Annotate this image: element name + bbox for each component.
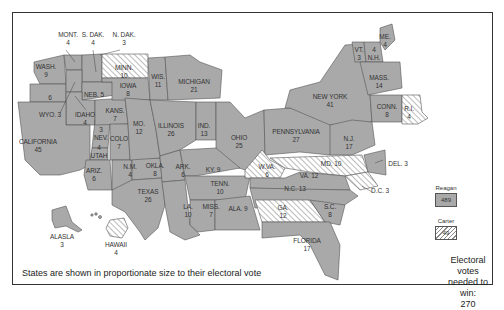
label-ariz: ARIZ.6 [86,167,102,183]
label-mont: MONT.4 [58,31,78,47]
label-iowa: IOWA8 [120,82,137,98]
legend-reagan-swatch: 489 [435,193,457,207]
label-wva: W.VA.6 [258,163,275,179]
state-hawaii [106,218,128,238]
state-sdak [82,54,102,82]
label-wash: WASH.9 [36,63,57,79]
label-okla: OKLA.8 [146,162,165,178]
label-ndak: N. DAK.3 [113,31,136,47]
label-ind: IND.13 [198,122,211,138]
label-utah: 4UTAH [91,144,108,160]
label-ala: ALA. 9 [229,205,248,213]
label-conn: CONN.8 [377,103,397,119]
legend-carter-swatch: 49 [435,226,457,240]
label-nm: N.M.4 [123,163,136,179]
label-sdak: S. DAK.4 [82,31,104,47]
label-dc: D.C. 3 [371,187,389,195]
hawaii-island [99,216,102,219]
label-miss: MISS.7 [202,203,219,219]
label-nev: 3NEV. [94,126,108,142]
label-ri: R.I.4 [404,105,414,121]
label-newyork: NEW YORK41 [313,93,347,109]
label-colo: COLO7 [110,135,128,151]
hawaii-island [91,214,93,216]
label-alaska: ALASLA3 [50,233,74,249]
label-me: ME.4 [379,33,390,49]
label-kans: KANS.7 [105,107,124,123]
win-threshold: Electoral votes needed to win: 270 [439,255,497,310]
state-wyo [66,70,82,92]
label-wyo: WYO. 3 [39,111,61,119]
label-ky: KY. 9 [206,166,221,174]
label-md: MD. 10 [321,160,341,168]
legend-carter-label: Carter [438,218,455,224]
label-neb: NEB. 5 [84,91,104,99]
hawaii-island [95,213,98,216]
label-oreg: 6 [48,94,52,102]
label-pennsylvania: PENNSYLVANIA27 [272,128,320,144]
label-illinois: ILLINOIS26 [158,122,184,138]
label-del: DEL. 3 [388,160,407,168]
label-nc: N.C. 13 [284,185,305,193]
label-mass: MASS.14 [369,74,389,90]
label-va: VA. 12 [300,172,318,180]
label-la: LA.10 [183,203,192,219]
label-ohio: OHIO25 [231,134,247,150]
label-nj: N.J.17 [343,135,354,151]
label-michigan: MICHIGAN21 [178,78,210,94]
label-ark: ARK.6 [176,163,191,179]
label-vt: VT.3 [354,46,363,62]
state-md [270,155,368,176]
label-ga: GA.12 [278,204,289,220]
map-note: States are shown in proportionate size t… [22,268,261,278]
label-wis: WIS.11 [151,73,165,89]
label-sc: S.C.8 [324,203,336,219]
label-florida: FLORIDA17 [293,237,320,253]
legend-reagan-label: Reagan [435,185,456,191]
state-alaska [52,206,82,232]
label-hawaii: HAWAII4 [105,241,127,257]
state-mont [64,55,82,70]
label-tenn: TENN.10 [210,180,229,196]
label-idaho: IDAHO4 [75,111,95,127]
label-minn: MINN.10 [115,64,133,80]
label-california: CALIFORNIA45 [19,138,57,154]
label-texas: TEXAS26 [138,188,159,204]
label-mo: MO.12 [133,120,145,136]
